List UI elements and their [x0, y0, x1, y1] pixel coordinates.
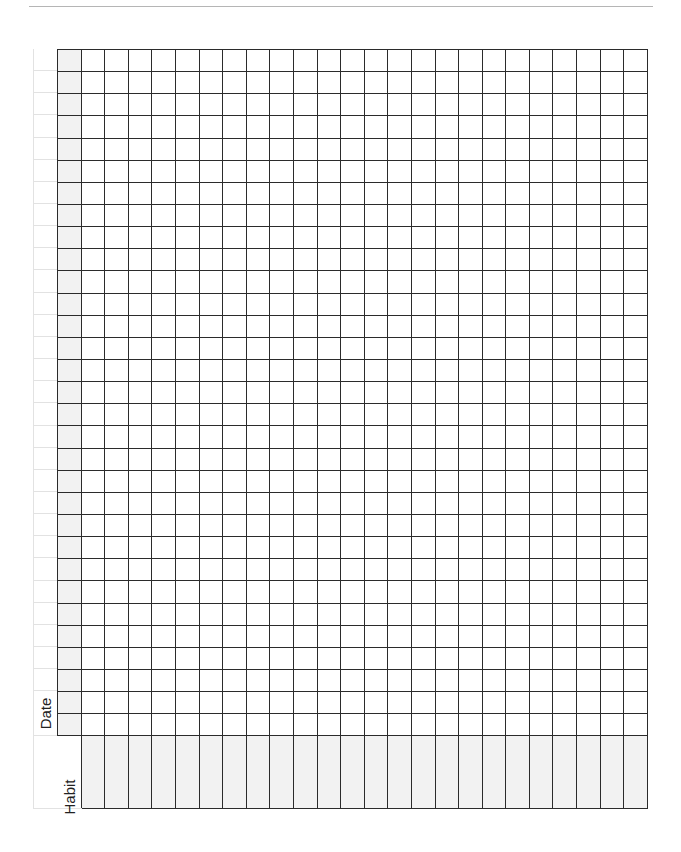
- check-cell[interactable]: [577, 426, 601, 448]
- check-cell[interactable]: [175, 359, 199, 381]
- check-cell[interactable]: [246, 271, 270, 293]
- check-cell[interactable]: [105, 692, 129, 714]
- check-cell[interactable]: [223, 337, 247, 359]
- check-cell[interactable]: [317, 669, 341, 691]
- check-cell[interactable]: [435, 537, 459, 559]
- check-cell[interactable]: [388, 470, 412, 492]
- check-cell[interactable]: [81, 603, 105, 625]
- check-cell[interactable]: [223, 249, 247, 271]
- check-cell[interactable]: [529, 359, 553, 381]
- check-cell[interactable]: [388, 50, 412, 72]
- check-cell[interactable]: [624, 448, 648, 470]
- check-cell[interactable]: [223, 559, 247, 581]
- check-cell[interactable]: [553, 692, 577, 714]
- check-cell[interactable]: [577, 470, 601, 492]
- check-cell[interactable]: [81, 138, 105, 160]
- check-cell[interactable]: [341, 160, 365, 182]
- check-cell[interactable]: [270, 315, 294, 337]
- check-cell[interactable]: [175, 537, 199, 559]
- check-cell[interactable]: [435, 359, 459, 381]
- check-cell[interactable]: [223, 426, 247, 448]
- check-cell[interactable]: [624, 692, 648, 714]
- check-cell[interactable]: [199, 492, 223, 514]
- check-cell[interactable]: [199, 182, 223, 204]
- check-cell[interactable]: [624, 116, 648, 138]
- check-cell[interactable]: [341, 72, 365, 94]
- check-cell[interactable]: [152, 537, 176, 559]
- check-cell[interactable]: [482, 669, 506, 691]
- check-cell[interactable]: [624, 714, 648, 736]
- check-cell[interactable]: [600, 514, 624, 536]
- check-cell[interactable]: [506, 293, 530, 315]
- check-cell[interactable]: [553, 382, 577, 404]
- check-cell[interactable]: [411, 359, 435, 381]
- check-cell[interactable]: [529, 669, 553, 691]
- check-cell[interactable]: [152, 647, 176, 669]
- check-cell[interactable]: [223, 448, 247, 470]
- check-cell[interactable]: [105, 581, 129, 603]
- check-cell[interactable]: [553, 448, 577, 470]
- check-cell[interactable]: [435, 470, 459, 492]
- check-cell[interactable]: [293, 426, 317, 448]
- check-cell[interactable]: [341, 204, 365, 226]
- check-cell[interactable]: [152, 227, 176, 249]
- check-cell[interactable]: [317, 337, 341, 359]
- habit-name-cell[interactable]: [388, 736, 412, 809]
- check-cell[interactable]: [128, 138, 152, 160]
- check-cell[interactable]: [293, 669, 317, 691]
- check-cell[interactable]: [341, 470, 365, 492]
- check-cell[interactable]: [270, 581, 294, 603]
- check-cell[interactable]: [577, 182, 601, 204]
- check-cell[interactable]: [175, 603, 199, 625]
- check-cell[interactable]: [128, 448, 152, 470]
- check-cell[interactable]: [128, 116, 152, 138]
- check-cell[interactable]: [317, 426, 341, 448]
- check-cell[interactable]: [317, 293, 341, 315]
- check-cell[interactable]: [506, 537, 530, 559]
- check-cell[interactable]: [128, 315, 152, 337]
- check-cell[interactable]: [624, 514, 648, 536]
- check-cell[interactable]: [411, 426, 435, 448]
- check-cell[interactable]: [317, 470, 341, 492]
- check-cell[interactable]: [388, 714, 412, 736]
- check-cell[interactable]: [506, 559, 530, 581]
- check-cell[interactable]: [341, 249, 365, 271]
- check-cell[interactable]: [246, 426, 270, 448]
- check-cell[interactable]: [293, 603, 317, 625]
- check-cell[interactable]: [341, 669, 365, 691]
- check-cell[interactable]: [600, 138, 624, 160]
- check-cell[interactable]: [577, 315, 601, 337]
- check-cell[interactable]: [624, 227, 648, 249]
- check-cell[interactable]: [411, 249, 435, 271]
- check-cell[interactable]: [388, 116, 412, 138]
- check-cell[interactable]: [293, 537, 317, 559]
- check-cell[interactable]: [435, 382, 459, 404]
- check-cell[interactable]: [317, 204, 341, 226]
- check-cell[interactable]: [199, 271, 223, 293]
- check-cell[interactable]: [152, 559, 176, 581]
- check-cell[interactable]: [459, 94, 483, 116]
- check-cell[interactable]: [529, 404, 553, 426]
- check-cell[interactable]: [128, 603, 152, 625]
- check-cell[interactable]: [223, 647, 247, 669]
- check-cell[interactable]: [105, 426, 129, 448]
- check-cell[interactable]: [81, 160, 105, 182]
- check-cell[interactable]: [600, 669, 624, 691]
- check-cell[interactable]: [459, 337, 483, 359]
- check-cell[interactable]: [482, 382, 506, 404]
- check-cell[interactable]: [293, 448, 317, 470]
- check-cell[interactable]: [553, 647, 577, 669]
- check-cell[interactable]: [600, 426, 624, 448]
- check-cell[interactable]: [293, 647, 317, 669]
- check-cell[interactable]: [600, 492, 624, 514]
- check-cell[interactable]: [482, 160, 506, 182]
- check-cell[interactable]: [364, 72, 388, 94]
- check-cell[interactable]: [459, 537, 483, 559]
- check-cell[interactable]: [600, 382, 624, 404]
- check-cell[interactable]: [81, 426, 105, 448]
- check-cell[interactable]: [152, 669, 176, 691]
- check-cell[interactable]: [529, 382, 553, 404]
- check-cell[interactable]: [293, 182, 317, 204]
- check-cell[interactable]: [600, 249, 624, 271]
- check-cell[interactable]: [435, 204, 459, 226]
